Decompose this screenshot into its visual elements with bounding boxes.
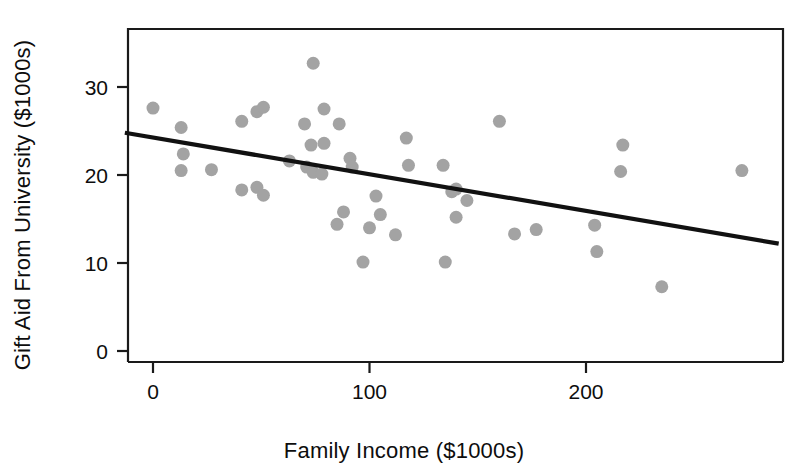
data-point xyxy=(175,164,188,177)
data-point xyxy=(508,227,521,240)
data-point xyxy=(460,194,473,207)
data-point xyxy=(614,165,627,178)
data-point xyxy=(257,101,270,114)
data-point xyxy=(400,132,413,145)
trend-line xyxy=(125,133,779,244)
data-point xyxy=(530,223,543,236)
data-point xyxy=(147,102,160,115)
data-point xyxy=(298,117,311,130)
x-tick-label: 100 xyxy=(352,380,387,403)
y-axis-ticks xyxy=(117,87,128,351)
data-point xyxy=(450,211,463,224)
data-point xyxy=(257,189,270,202)
y-tick-label: 20 xyxy=(85,164,108,187)
data-point xyxy=(305,139,318,152)
data-point xyxy=(590,245,603,258)
data-point xyxy=(735,164,748,177)
data-point xyxy=(493,115,506,128)
data-point xyxy=(337,205,350,218)
data-point xyxy=(363,221,376,234)
y-axis-tick-labels: 0102030 xyxy=(85,76,108,363)
data-point xyxy=(588,219,601,232)
data-points-group xyxy=(147,57,749,294)
data-point xyxy=(357,256,370,269)
data-point xyxy=(318,103,331,116)
x-axis: 0100200 xyxy=(128,362,783,403)
data-point xyxy=(389,228,402,241)
data-point xyxy=(318,137,331,150)
x-tick-label: 200 xyxy=(568,380,603,403)
y-tick-label: 0 xyxy=(96,340,108,363)
data-point xyxy=(175,121,188,134)
x-tick-label: 0 xyxy=(147,380,159,403)
data-point xyxy=(331,218,344,231)
y-axis: 0102030 xyxy=(85,76,128,363)
data-point xyxy=(616,139,629,152)
data-point xyxy=(235,183,248,196)
data-point xyxy=(315,168,328,181)
y-tick-label: 10 xyxy=(85,252,108,275)
data-point xyxy=(235,115,248,128)
data-point xyxy=(307,57,320,70)
data-point xyxy=(402,159,415,172)
data-point xyxy=(655,280,668,293)
data-point xyxy=(374,208,387,221)
y-tick-label: 30 xyxy=(85,76,108,99)
chart-canvas: 0102030 0100200 Family Income ($1000s) G… xyxy=(0,0,809,475)
data-point xyxy=(369,190,382,203)
scatter-plot-figure: 0102030 0100200 Family Income ($1000s) G… xyxy=(0,0,809,475)
data-point xyxy=(437,159,450,172)
data-point xyxy=(439,256,452,269)
data-point xyxy=(205,163,218,176)
data-point xyxy=(177,147,190,160)
x-axis-title: Family Income ($1000s) xyxy=(284,438,524,463)
y-axis-title: Gift Aid From University ($1000s) xyxy=(10,40,35,371)
data-point xyxy=(333,117,346,130)
x-axis-tick-labels: 0100200 xyxy=(147,380,603,403)
x-axis-ticks xyxy=(153,362,586,373)
